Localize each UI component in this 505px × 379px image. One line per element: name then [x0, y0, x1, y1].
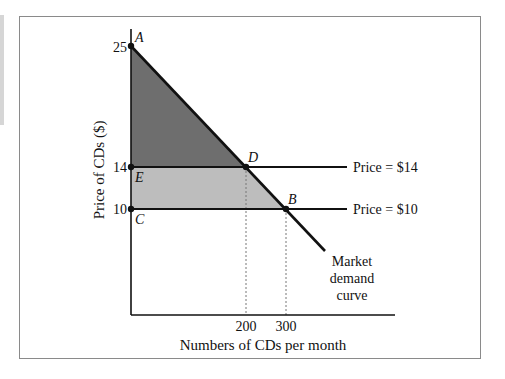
price-10-label: Price = $10 [353, 202, 418, 217]
label-A: A [134, 30, 144, 45]
point-C [128, 206, 134, 212]
point-A [128, 43, 134, 49]
label-D: D [247, 150, 258, 165]
demand-label-line1: Market [332, 254, 373, 269]
label-E: E [134, 170, 144, 185]
x-tick-200: 200 [236, 319, 257, 334]
y-axis-title: Price of CDs ($) [91, 121, 108, 220]
demand-label-line2: demand [330, 271, 374, 286]
label-B: B [288, 192, 297, 207]
y-tick-14: 14 [113, 160, 127, 175]
demand-label-line3: curve [336, 288, 367, 303]
x-axis-title: Numbers of CDs per month [180, 337, 347, 353]
point-E [128, 164, 134, 170]
light-shaded-region [131, 167, 286, 209]
chart: 25 14 10 200 300 A E C D B Price = $14 P… [0, 0, 505, 379]
y-tick-25: 25 [113, 40, 127, 55]
x-tick-300: 300 [276, 319, 297, 334]
y-tick-10: 10 [113, 202, 127, 217]
price-14-label: Price = $14 [353, 160, 418, 175]
label-C: C [135, 212, 145, 227]
